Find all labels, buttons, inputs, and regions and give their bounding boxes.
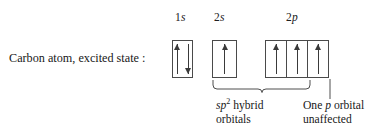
shell-label-2s: 2s <box>214 12 225 24</box>
electron-arrow-up-icon <box>174 44 181 74</box>
orbital-box-2p-2 <box>286 40 308 78</box>
annotation-unaffected-line1-pre: One <box>303 99 325 112</box>
electron-arrow-up-icon <box>221 44 228 74</box>
annotation-unaffected-line2: unaffected <box>303 113 364 127</box>
hybrid-orbitals-brace <box>213 80 310 93</box>
electron-single-2p-3 <box>308 41 328 77</box>
shell-label-2s-letter: s <box>220 11 225 23</box>
annotation-hybrid-symbol: sp <box>216 99 226 112</box>
orbital-box-2p-3 <box>307 40 329 78</box>
shell-label-1s-letter: s <box>181 11 186 23</box>
orbital-diagram-figure: 1s 2s 2p Carbon atom, excited state : <box>0 0 388 132</box>
orbital-box-1s-1 <box>172 40 193 78</box>
annotation-unaffected-line1-post: orbital <box>331 99 364 112</box>
orbital-group-2p <box>265 40 329 78</box>
electron-single-2s <box>213 41 236 77</box>
figure-caption: Carbon atom, excited state : <box>9 52 145 64</box>
electron-arrow-down-icon <box>185 44 192 74</box>
electron-pair-1s <box>173 41 192 77</box>
orbital-group-1s <box>172 40 193 78</box>
annotation-unaffected-orbital: One p orbital unaffected <box>303 99 364 126</box>
shell-label-2p-letter: p <box>292 11 298 23</box>
electron-single-2p-2 <box>287 41 307 77</box>
orbital-box-2s-1 <box>212 40 237 78</box>
annotation-hybrid-line1-rest: hybrid <box>230 99 263 112</box>
annotation-hybrid-orbitals: sp2 hybrid orbitals <box>216 99 263 126</box>
electron-arrow-up-icon <box>273 44 280 74</box>
electron-arrow-up-icon <box>294 44 301 74</box>
annotation-hybrid-line2: orbitals <box>216 113 263 127</box>
shell-label-1s: 1s <box>175 12 186 24</box>
orbital-box-2p-1 <box>265 40 287 78</box>
orbital-group-2s <box>212 40 237 78</box>
electron-single-2p-1 <box>266 41 286 77</box>
electron-arrow-up-icon <box>315 44 322 74</box>
shell-label-2p: 2p <box>286 12 298 24</box>
